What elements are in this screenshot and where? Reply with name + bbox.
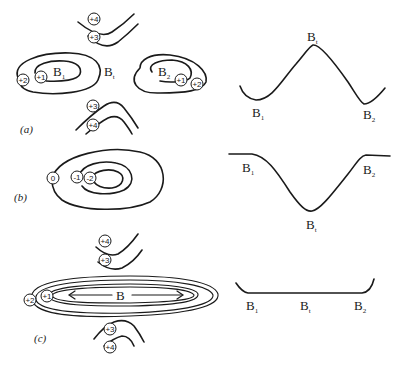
panel-b-label: (b): [14, 191, 27, 204]
panel-a-contour-map: +4 +3 +2 +1 +1 +2 +3 +4 B1 Bt B2 (a): [17, 13, 206, 136]
svg-text:+3: +3: [105, 325, 115, 334]
profile-a-label-bt: Bt: [307, 29, 318, 46]
svg-text:+3: +3: [89, 33, 99, 42]
energy-landscape-figure: +4 +3 +2 +1 +1 +2 +3 +4 B1 Bt B2 (a) B1 …: [0, 0, 402, 365]
svg-text:+3: +3: [88, 102, 98, 111]
contour-label-plus3-bottom: +3: [87, 100, 99, 112]
profile-c-label-bt: Bt: [300, 298, 311, 315]
contour-label-plus4-top: +4: [88, 13, 100, 25]
profile-c-label-b1: B1: [246, 298, 259, 315]
svg-text:+4: +4: [105, 343, 115, 352]
svg-text:0: 0: [51, 174, 56, 183]
contour-plus4-top: [78, 14, 134, 34]
contour-label-0: 0: [47, 172, 59, 184]
contour-label-plus4-bottom-c: +4: [104, 341, 116, 353]
panel-a-label: (a): [20, 123, 33, 136]
contour-label-plus3-top-c: +3: [99, 254, 111, 266]
svg-text:+2: +2: [25, 296, 35, 305]
label-bt-map: Bt: [104, 64, 115, 81]
contour-label-plus3-top: +3: [88, 31, 100, 43]
contour-label-plus2-right: +2: [191, 78, 203, 90]
svg-text:+1: +1: [36, 73, 46, 82]
contour-label-plus1-left: +1: [35, 71, 47, 83]
svg-text:+1: +1: [42, 292, 52, 301]
svg-text:+2: +2: [18, 76, 28, 85]
contour-label-plus1-c: +1: [41, 290, 53, 302]
contour-0: [52, 150, 163, 210]
svg-text:+3: +3: [100, 256, 110, 265]
svg-text:+4: +4: [88, 121, 98, 130]
contour-label-plus4-top-c: +4: [99, 235, 111, 247]
panel-a-energy-profile: B1 Bt B2: [240, 29, 385, 124]
contour-label-plus4-bottom: +4: [87, 119, 99, 131]
contour-label-plus1-right: +1: [175, 74, 187, 86]
panel-c-label: (c): [34, 332, 47, 345]
contour-label-minus2: -2: [84, 172, 96, 184]
svg-text:+4: +4: [89, 15, 99, 24]
basin-label-b: B: [116, 288, 125, 303]
label-b2-map: B2: [158, 64, 171, 81]
profile-flat-curve: [236, 279, 374, 293]
panel-c-contour-map: B +4 +3 +2 +1 +3 +4 (c): [24, 234, 218, 353]
profile-hill-curve: [240, 45, 385, 104]
profile-a-label-b1: B1: [252, 105, 265, 122]
contour-label-plus2-left: +2: [17, 74, 29, 86]
contour-label-minus1: -1: [71, 171, 83, 183]
panel-b-energy-profile: B1 Bt B2: [229, 154, 390, 234]
svg-text:-1: -1: [73, 173, 81, 182]
svg-text:+4: +4: [100, 237, 110, 246]
contour-plus3-bottom: [76, 102, 138, 130]
contour-minus2: [92, 170, 123, 188]
svg-text:+2: +2: [192, 80, 202, 89]
profile-b-label-b2: B2: [363, 162, 376, 179]
svg-text:+1: +1: [176, 76, 186, 85]
profile-c-label-b2: B2: [354, 298, 367, 315]
svg-text:-2: -2: [86, 174, 94, 183]
contour-label-plus2-c: +2: [24, 294, 36, 306]
panel-b-contour-map: 0 -1 -2 (b): [14, 150, 163, 210]
label-b1-map: B1: [53, 64, 66, 81]
contour-plus3-bottom-c: [94, 321, 144, 342]
profile-b-label-bt: Bt: [306, 217, 317, 234]
profile-b-label-b1: B1: [242, 160, 255, 177]
contour-label-plus3-bottom-c: +3: [104, 323, 116, 335]
panel-c-energy-profile: B1 Bt B2: [236, 279, 374, 315]
profile-a-label-b2: B2: [363, 107, 376, 124]
